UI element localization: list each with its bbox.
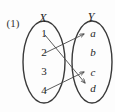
diagram-canvas <box>0 0 115 112</box>
mapping-diagram-figure: (1) X Y 1 2 3 4 a b c d <box>0 0 115 112</box>
left-set-ellipse <box>23 21 65 103</box>
arrow-1-to-d <box>45 35 85 83</box>
right-set-ellipse <box>72 21 112 103</box>
